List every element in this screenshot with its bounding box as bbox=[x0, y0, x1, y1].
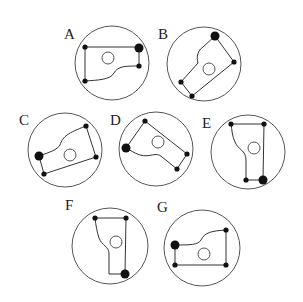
vertex-dot bbox=[223, 227, 228, 232]
shape-outline bbox=[95, 218, 126, 274]
option-label: D bbox=[110, 112, 121, 128]
outer-circle bbox=[72, 208, 148, 284]
option-panel-a[interactable]: A bbox=[64, 26, 149, 100]
large-vertex-dot bbox=[211, 32, 220, 41]
option-label: B bbox=[158, 26, 168, 42]
option-label: E bbox=[202, 115, 211, 131]
vertex-dot bbox=[82, 78, 87, 83]
option-panel-c[interactable]: C bbox=[19, 112, 102, 187]
option-label: A bbox=[64, 26, 75, 42]
vertex-dot bbox=[184, 151, 189, 156]
vertex-dot bbox=[172, 262, 177, 267]
vertex-dot bbox=[261, 121, 266, 126]
inner-hole-circle bbox=[152, 136, 164, 148]
vertex-dot bbox=[178, 79, 183, 84]
large-vertex-dot bbox=[135, 44, 144, 53]
large-vertex-dot bbox=[121, 270, 130, 279]
puzzle-diagram: ABCDEFG bbox=[0, 0, 303, 302]
shape-outline bbox=[175, 230, 226, 265]
vertex-dot bbox=[83, 123, 88, 128]
vertex-dot bbox=[231, 59, 236, 64]
large-vertex-dot bbox=[259, 176, 268, 185]
vertex-dot bbox=[228, 121, 233, 126]
vertex-dot bbox=[93, 154, 98, 159]
inner-hole-circle bbox=[248, 142, 260, 154]
vertex-dot bbox=[92, 215, 97, 220]
large-vertex-dot bbox=[122, 144, 131, 153]
option-panel-d[interactable]: D bbox=[110, 112, 193, 186]
vertex-dot bbox=[142, 118, 147, 123]
option-panel-f[interactable]: F bbox=[65, 197, 148, 284]
option-panel-b[interactable]: B bbox=[158, 26, 241, 101]
large-vertex-dot bbox=[171, 241, 180, 250]
vertex-dot bbox=[189, 93, 194, 98]
vertex-dot bbox=[136, 63, 141, 68]
inner-hole-circle bbox=[64, 149, 76, 161]
option-panel-g[interactable]: G bbox=[157, 199, 240, 286]
option-label: F bbox=[65, 197, 73, 213]
inner-hole-circle bbox=[198, 248, 210, 260]
vertex-dot bbox=[223, 262, 228, 267]
outer-circle bbox=[167, 27, 241, 101]
inner-hole-circle bbox=[203, 63, 215, 75]
vertex-dot bbox=[82, 44, 87, 49]
vertex-dot bbox=[123, 215, 128, 220]
option-panel-e[interactable]: E bbox=[202, 115, 285, 189]
option-label: G bbox=[157, 199, 168, 215]
shape-outline bbox=[181, 36, 234, 96]
inner-hole-circle bbox=[110, 236, 122, 248]
option-label: C bbox=[19, 112, 29, 128]
inner-hole-circle bbox=[102, 52, 114, 64]
shape-outline bbox=[126, 121, 187, 169]
large-vertex-dot bbox=[35, 152, 44, 161]
vertex-dot bbox=[243, 177, 248, 182]
vertex-dot bbox=[41, 171, 46, 176]
outer-circle bbox=[28, 113, 102, 187]
vertex-dot bbox=[174, 166, 179, 171]
shape-outline bbox=[85, 47, 139, 81]
outer-circle bbox=[211, 115, 285, 189]
